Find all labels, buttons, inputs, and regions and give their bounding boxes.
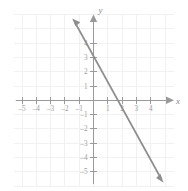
x-tick-label: –3 <box>46 105 55 113</box>
y-tick-label: 1 <box>84 83 88 91</box>
x-tick-label: –4 <box>32 105 41 113</box>
coordinate-plane-figure: –5 –4 –3 –2 –1 1 2 3 4 4 3 2 1 –1 –2 –3 … <box>0 0 188 191</box>
y-axis-arrow <box>90 15 97 23</box>
y-tick-label: 2 <box>84 68 88 76</box>
y-tick-label: –4 <box>79 154 88 162</box>
x-tick-label: –2 <box>60 105 69 113</box>
y-tick-label: 3 <box>84 54 88 62</box>
x-axis-arrow <box>166 97 174 104</box>
line-arrow-lower-right <box>156 174 163 183</box>
y-tick-label: –1 <box>79 111 88 119</box>
graph-canvas: –5 –4 –3 –2 –1 1 2 3 4 4 3 2 1 –1 –2 –3 … <box>0 0 188 191</box>
y-axis-label: y <box>98 5 103 15</box>
y-axis <box>90 15 97 185</box>
x-tick-label: 3 <box>135 105 139 113</box>
x-tick-label: 4 <box>149 105 153 113</box>
x-axis-label: x <box>175 96 180 106</box>
y-tick-label: –5 <box>79 168 88 176</box>
x-tick-label: –5 <box>17 105 26 113</box>
x-tick-label: 1 <box>106 105 110 113</box>
y-tick-label: –3 <box>79 140 88 148</box>
y-tick-label: –2 <box>79 125 88 133</box>
